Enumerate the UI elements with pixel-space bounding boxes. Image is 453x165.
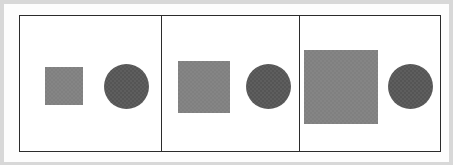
panel-3-circle	[388, 64, 433, 109]
panel-3-content	[300, 16, 438, 151]
figure-mat	[4, 4, 449, 162]
panel-1-content	[20, 16, 161, 151]
panel-2-circle	[246, 64, 291, 109]
panel-3-square	[304, 50, 378, 124]
panel-2-square	[178, 61, 230, 113]
panel-2-content	[162, 16, 299, 151]
panel-3	[299, 16, 438, 151]
figure-canvas	[0, 0, 453, 165]
panel-1-square	[45, 67, 83, 105]
panel-1	[20, 16, 161, 151]
panel-frame	[19, 15, 441, 152]
panel-1-circle	[104, 64, 149, 109]
panel-2	[161, 16, 299, 151]
